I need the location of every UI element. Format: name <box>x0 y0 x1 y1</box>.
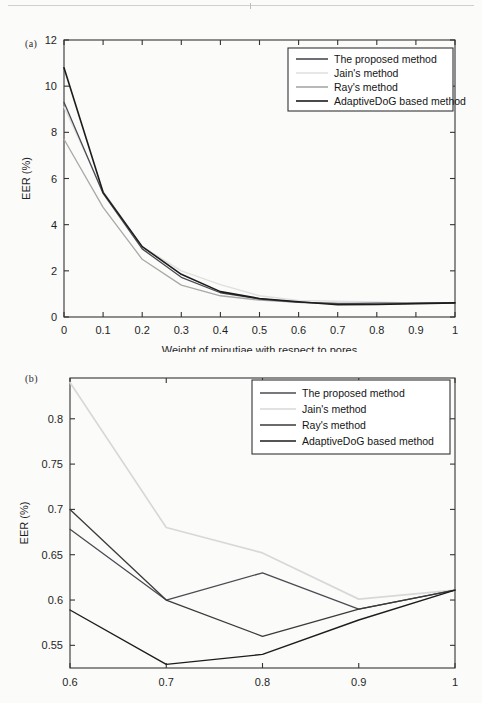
y-tick-label: 0.7 <box>48 503 63 515</box>
legend-label-1: The proposed method <box>334 53 437 65</box>
x-axis-title: Weight of minutiae with respect to pores <box>162 344 358 352</box>
legend-label-2: Jain's method <box>302 403 367 415</box>
y-axis-title: EER (%) <box>20 157 32 200</box>
y-tick-label: 6 <box>51 173 57 185</box>
chart-b-canvas: 0.60.70.80.910.550.60.650.70.750.8EER (%… <box>0 360 482 703</box>
panel-tag-a: (a) <box>25 38 37 49</box>
y-tick-label: 0.75 <box>42 458 63 470</box>
chart-a-canvas: 00.10.20.30.40.50.60.70.80.91024681012EE… <box>0 12 482 352</box>
x-tick-label: 0 <box>61 324 67 336</box>
x-tick-label: 1 <box>452 676 458 688</box>
figure-b: (b) 0.60.70.80.910.550.60.650.70.750.8EE… <box>0 360 482 703</box>
y-axis-title: EER (%) <box>18 502 30 545</box>
scan-artifact-tick <box>250 3 251 9</box>
y-tick-label: 4 <box>51 219 57 231</box>
y-tick-label: 0 <box>51 311 57 323</box>
x-tick-label: 0.5 <box>252 324 267 336</box>
y-tick-label: 0.8 <box>48 413 63 425</box>
y-tick-label: 0.6 <box>48 594 63 606</box>
x-tick-label: 0.9 <box>408 324 423 336</box>
x-tick-label: 0.8 <box>369 324 384 336</box>
x-tick-label: 0.4 <box>213 324 228 336</box>
legend-label-2: Jain's method <box>334 67 399 79</box>
scan-artifact-rule <box>8 5 474 6</box>
legend-label-3: Ray's method <box>334 81 398 93</box>
x-tick-label: 0.8 <box>255 676 270 688</box>
x-tick-label: 0.1 <box>95 324 110 336</box>
y-tick-label: 0.55 <box>42 639 63 651</box>
y-tick-label: 8 <box>51 126 57 138</box>
series-line <box>70 529 455 609</box>
x-tick-label: 0.9 <box>351 676 366 688</box>
x-tick-label: 0.2 <box>135 324 150 336</box>
y-tick-label: 12 <box>45 34 57 46</box>
x-tick-label: 0.6 <box>291 324 306 336</box>
x-tick-label: 0.7 <box>159 676 174 688</box>
legend-label-4: AdaptiveDoG based method <box>334 95 466 107</box>
x-tick-label: 0.6 <box>62 676 77 688</box>
figure-page: (a) 00.10.20.30.40.50.60.70.80.910246810… <box>0 0 482 703</box>
figure-a: (a) 00.10.20.30.40.50.60.70.80.910246810… <box>0 12 482 352</box>
y-tick-label: 0.65 <box>42 549 63 561</box>
x-tick-label: 0.7 <box>330 324 345 336</box>
x-tick-label: 0.3 <box>174 324 189 336</box>
series-line <box>64 102 455 303</box>
legend-label-1: The proposed method <box>302 387 405 399</box>
series-line <box>64 107 455 303</box>
y-tick-label: 10 <box>45 80 57 92</box>
legend-label-4: AdaptiveDoG based method <box>302 435 434 447</box>
panel-tag-b: (b) <box>25 373 38 384</box>
y-tick-label: 2 <box>51 265 57 277</box>
x-tick-label: 1 <box>452 324 458 336</box>
legend-label-3: Ray's method <box>302 419 366 431</box>
